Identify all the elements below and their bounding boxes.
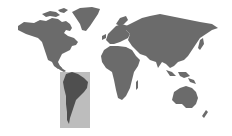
continent-australia [172,86,198,108]
continent-north-america [18,18,78,69]
japan [198,38,204,50]
new-zealand [202,110,208,118]
continent-europe [102,24,130,44]
scandinavia [116,16,128,26]
madagascar [136,80,138,90]
greenland [72,7,100,31]
world-map [0,0,232,136]
southeast-asia-islands [166,70,196,84]
arctic-islands [42,8,68,17]
continent-africa [101,46,140,100]
